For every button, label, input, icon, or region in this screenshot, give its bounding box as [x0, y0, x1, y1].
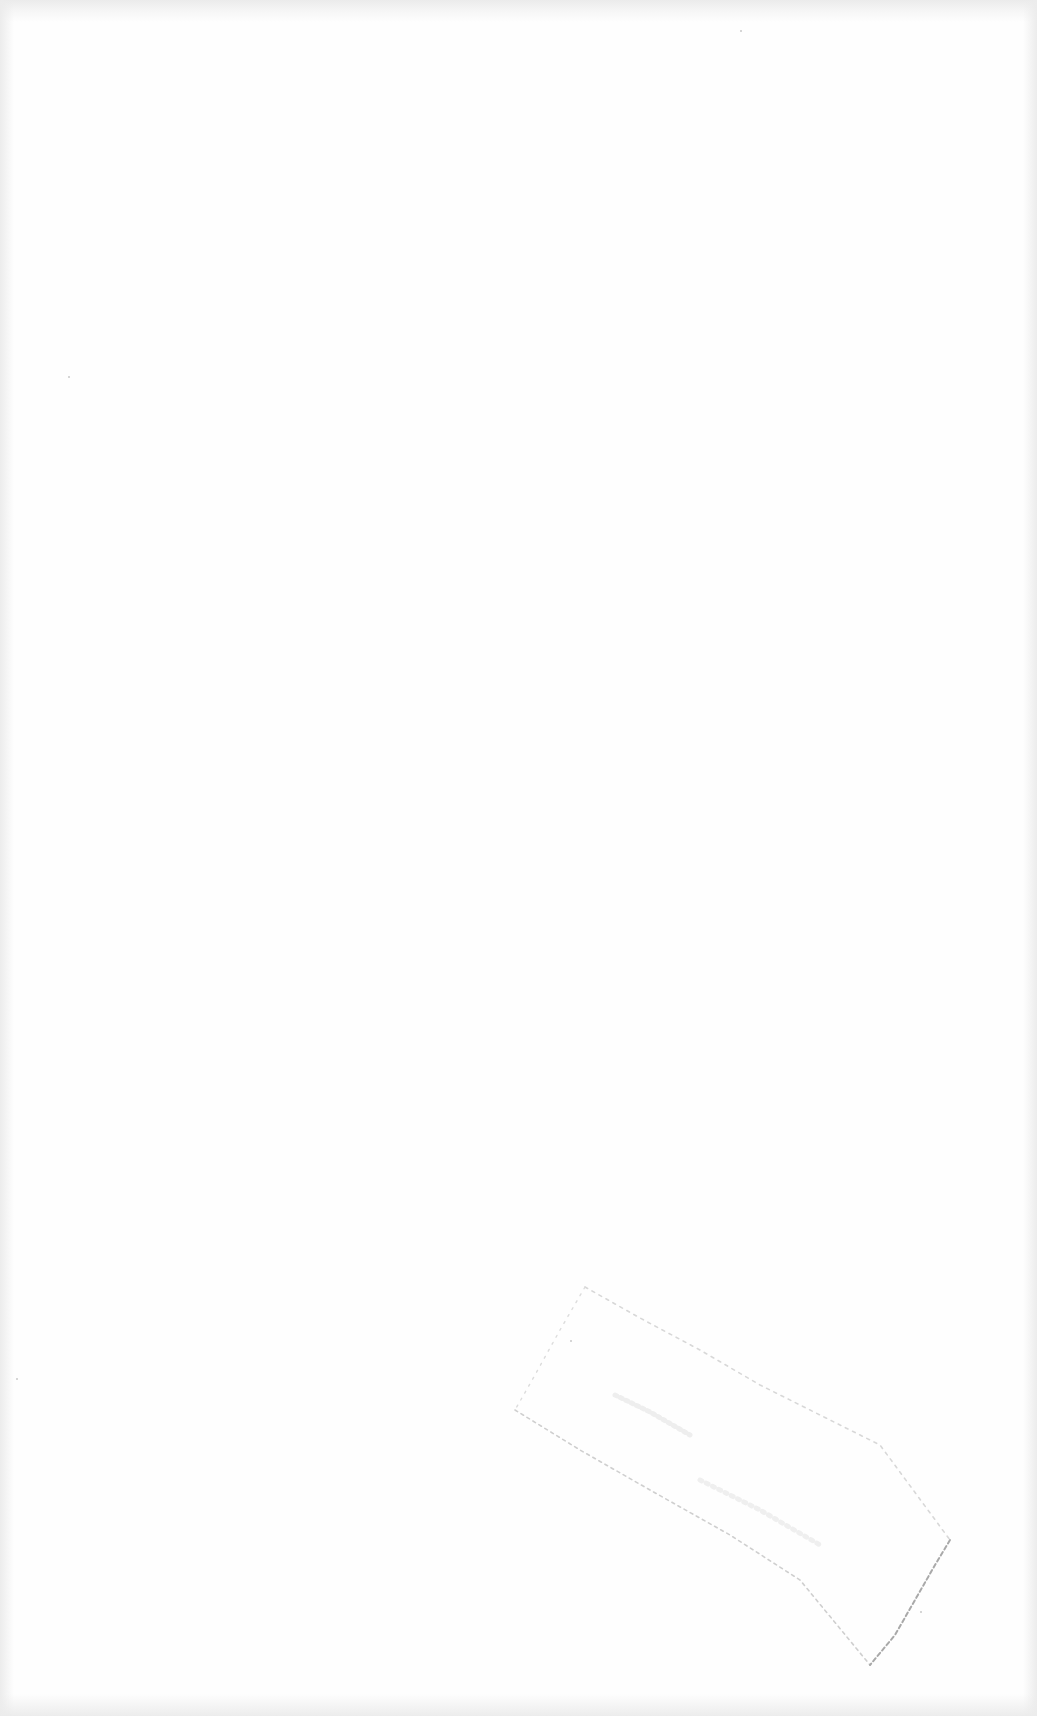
page-edge-top	[0, 0, 1037, 22]
page-edge-right	[1023, 0, 1037, 1716]
scanned-page	[0, 0, 1037, 1716]
page-edge-left	[0, 0, 14, 1716]
page-edge-bottom	[0, 1694, 1037, 1716]
scan-speck	[920, 1611, 922, 1613]
scan-speck	[16, 1378, 18, 1380]
stamp-outline-icon	[0, 0, 1037, 1716]
scan-speck	[570, 1340, 572, 1342]
scan-speck	[68, 376, 70, 378]
scan-speck	[740, 30, 742, 32]
